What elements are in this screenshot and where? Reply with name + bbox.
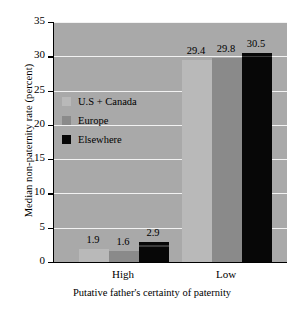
bar-value-label: 2.9	[133, 227, 173, 238]
bar	[182, 60, 212, 262]
gridline	[54, 22, 287, 23]
chart-legend: U.S + Canada Europe Elsewhere	[62, 92, 182, 149]
y-axis-tick-label: 25	[11, 83, 45, 95]
legend-swatch-icon	[62, 135, 71, 144]
x-axis-category-label: Low	[181, 268, 271, 280]
y-axis-tick-label: 0	[11, 254, 45, 266]
legend-swatch-icon	[62, 97, 71, 106]
legend-label: U.S + Canada	[78, 96, 137, 107]
bar	[109, 251, 139, 262]
y-axis-tick-label: 5	[11, 220, 45, 232]
bar	[79, 249, 109, 262]
x-axis-category-label: High	[78, 268, 168, 280]
y-axis-tick-label: 30	[11, 48, 45, 60]
y-axis-tick-label: 35	[11, 14, 45, 26]
bar	[242, 53, 272, 262]
legend-label: Europe	[78, 115, 108, 126]
bar-value-label: 30.5	[236, 38, 276, 49]
legend-item: Europe	[62, 111, 182, 130]
legend-item: Elsewhere	[62, 130, 182, 149]
x-axis-line	[53, 262, 287, 263]
bar-chart-figure: Median non-paternity rate (percent) 0510…	[0, 0, 304, 310]
y-axis-tick-label: 15	[11, 151, 45, 163]
bar	[139, 242, 169, 262]
y-axis-tick-label: 20	[11, 117, 45, 129]
bar	[212, 58, 242, 262]
y-axis-tick-label: 10	[11, 185, 45, 197]
x-axis-title: Putative father's certainty of paternity	[0, 287, 304, 298]
bar-top-edge	[139, 245, 169, 247]
bar-top-edge	[242, 56, 272, 58]
legend-item: U.S + Canada	[62, 92, 182, 111]
legend-swatch-icon	[62, 116, 71, 125]
legend-label: Elsewhere	[78, 134, 122, 145]
